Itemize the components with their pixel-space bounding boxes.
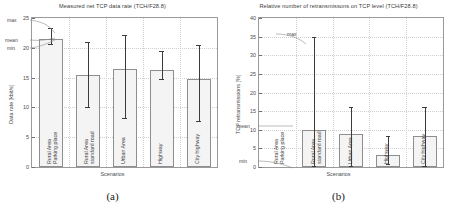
y-tick-label: 40: [250, 15, 259, 21]
chart-panel-a: Measured net TCP data rate (TCH/F28.8) 0…: [0, 0, 225, 215]
chart-panel-b: Relative number of retransmissons on TCP…: [226, 0, 451, 215]
error-cap-min-5: [422, 166, 426, 167]
min-annotation: min: [239, 158, 247, 164]
category-label-3: Urban Area: [347, 137, 353, 164]
y-tick-label: 35: [250, 34, 259, 40]
y-tick-label: 30: [250, 52, 259, 58]
error-cap-min-1: [48, 44, 52, 45]
category-label-4: Highway: [157, 143, 163, 163]
y-tick-label: 20: [23, 45, 32, 51]
error-cap-max-5: [422, 107, 426, 108]
y-tick-label: 10: [250, 127, 259, 133]
error-cap-max-1: [48, 28, 52, 29]
y-tick-mark: [259, 130, 262, 131]
vertical-gridline: [369, 18, 370, 167]
error-cap-min-3: [349, 166, 353, 167]
y-tick-label: 10: [23, 104, 32, 110]
max-annotation: max: [287, 31, 297, 37]
y-tick-label: 25: [23, 15, 32, 21]
y-tick-mark: [32, 48, 35, 49]
category-label-2: Rural Areastandard road: [83, 131, 95, 164]
y-tick-mark: [32, 18, 35, 19]
error-bar-4: [162, 51, 163, 80]
error-cap-max-2: [312, 37, 316, 38]
error-cap-min-2: [85, 107, 89, 108]
x-axis-label-a: Scenarios: [0, 171, 225, 177]
gridline: [259, 74, 443, 75]
vertical-gridline: [406, 18, 407, 167]
y-tick-label: 0: [26, 164, 32, 170]
error-cap-min-3: [122, 118, 126, 119]
y-tick-mark: [259, 167, 262, 168]
subcaption-a: (a): [0, 190, 225, 202]
category-label-1: Rural AreaParking place: [273, 131, 285, 163]
category-label-4: Highway: [383, 143, 389, 163]
y-tick-mark: [259, 148, 262, 149]
y-tick-label: 5: [26, 134, 32, 140]
error-cap-max-4: [386, 136, 390, 137]
y-tick-label: 0: [253, 164, 259, 170]
max-annotation: max: [7, 17, 17, 23]
category-label-5: City highway: [194, 133, 200, 163]
y-tick-mark: [32, 137, 35, 138]
min-annotation: min: [7, 45, 15, 51]
category-label-2: Rural Areastandard road: [310, 131, 322, 164]
error-cap-max-3: [349, 107, 353, 108]
error-bar-3: [125, 35, 126, 118]
subcaption-b: (b): [226, 190, 451, 202]
vertical-gridline: [69, 18, 70, 167]
figure-container: Measured net TCP data rate (TCH/F28.8) 0…: [0, 0, 451, 215]
category-label-5: City highway: [420, 133, 426, 163]
error-cap-max-3: [122, 35, 126, 36]
plot-area-a: 0510152025Rural AreaParking placeRural A…: [31, 17, 218, 168]
y-tick-mark: [259, 93, 262, 94]
y-tick-mark: [32, 107, 35, 108]
y-tick-label: 15: [250, 108, 259, 114]
x-axis-label-b: Scenarios: [226, 171, 451, 177]
y-tick-label: 25: [250, 71, 259, 77]
y-tick-mark: [259, 74, 262, 75]
error-cap-min-4: [159, 79, 163, 80]
y-tick-mark: [32, 167, 35, 168]
vertical-gridline: [333, 18, 334, 167]
error-bar-1: [51, 28, 52, 44]
y-axis-label-a: Data rate [kbit/s]: [8, 85, 14, 124]
y-tick-mark: [259, 18, 262, 19]
y-tick-mark: [259, 111, 262, 112]
y-tick-mark: [259, 55, 262, 56]
error-cap-max-5: [196, 45, 200, 46]
error-bar-5: [199, 45, 200, 121]
vertical-gridline: [143, 18, 144, 167]
error-bar-2: [88, 42, 89, 108]
chart-title-b: Relative number of retransmissons on TCP…: [226, 3, 451, 9]
y-tick-mark: [32, 78, 35, 79]
error-cap-max-4: [159, 51, 163, 52]
category-label-3: Urban Area: [120, 137, 126, 164]
y-axis-label-b: TCP retransmissions [%]: [235, 75, 241, 134]
gridline: [259, 93, 443, 94]
plot-area-b: 0510152025303540Rural AreaParking placeR…: [258, 17, 444, 168]
y-tick-mark: [259, 37, 262, 38]
y-tick-label: 5: [253, 145, 259, 151]
vertical-gridline: [180, 18, 181, 167]
error-cap-max-2: [85, 42, 89, 43]
vertical-gridline: [296, 18, 297, 167]
vertical-gridline: [106, 18, 107, 167]
error-cap-min-5: [196, 121, 200, 122]
mean-annotation: mean: [5, 37, 18, 43]
error-cap-min-2: [312, 166, 316, 167]
gridline: [259, 55, 443, 56]
chart-title-a: Measured net TCP data rate (TCH/F28.8): [0, 3, 225, 9]
y-tick-label: 20: [250, 90, 259, 96]
y-tick-label: 15: [23, 75, 32, 81]
category-label-1: Rural AreaParking place: [46, 131, 58, 163]
